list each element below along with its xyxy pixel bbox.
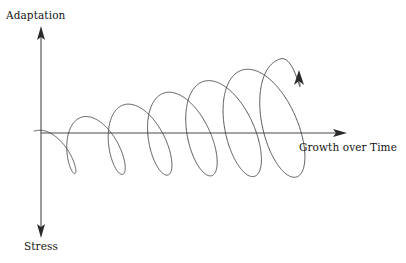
growth-spiral-path xyxy=(34,59,305,178)
y-axis-bottom-label: Stress xyxy=(24,240,58,252)
growth-spiral-group xyxy=(34,59,305,178)
y-axis-top-label: Adaptation xyxy=(6,9,65,21)
x-axis-label: Growth over Time xyxy=(299,141,397,153)
spiral-arrowhead-icon xyxy=(294,70,304,85)
axes-group xyxy=(37,26,347,238)
diagram-svg xyxy=(0,0,406,263)
diagram-canvas: Adaptation Stress Growth over Time xyxy=(0,0,406,263)
